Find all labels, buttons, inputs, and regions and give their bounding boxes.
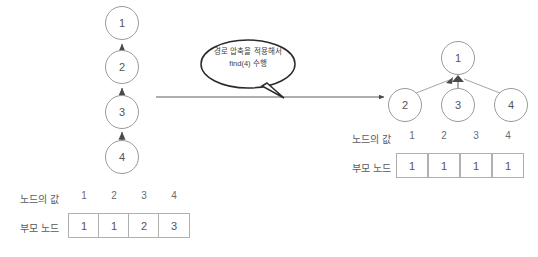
right-parent-cell: 1 [396, 153, 428, 178]
left-table-row2-label: 부모 노드 [20, 220, 59, 235]
left-node-4: 4 [105, 140, 139, 174]
right-col-header: 1 [396, 130, 428, 141]
left-col-header: 1 [68, 190, 100, 201]
left-col-header: 4 [158, 190, 190, 201]
right-child-node-2: 2 [388, 88, 422, 122]
left-parent-cell: 3 [158, 213, 190, 238]
right-parent-cell: 1 [428, 153, 460, 178]
right-col-header: 3 [460, 130, 492, 141]
right-parent-cell: 1 [460, 153, 492, 178]
left-parent-cell: 1 [68, 213, 100, 238]
left-parent-cell: 1 [98, 213, 130, 238]
right-parent-cell: 1 [492, 153, 524, 178]
right-child-node-3: 3 [441, 88, 475, 122]
left-parent-cell: 2 [128, 213, 160, 238]
right-col-header: 2 [428, 130, 460, 141]
right-table-row1-label: 노드의 값 [352, 131, 391, 146]
left-node-3: 3 [105, 95, 139, 129]
right-table-row2-label: 부모 노드 [352, 160, 391, 175]
callout-line-2: find(4) 수행 [206, 58, 290, 70]
left-col-header: 3 [128, 190, 160, 201]
right-child-node-4: 4 [494, 88, 528, 122]
callout-line-1: 경로 압축을 적용해서 [206, 46, 290, 58]
left-table-row1-label: 노드의 값 [20, 191, 59, 206]
left-node-1: 1 [105, 6, 139, 40]
diagram-canvas: 1 2 3 4 경로 압축을 적용해서 find(4) 수행 노드의 값 부모 … [0, 0, 538, 257]
right-root-node: 1 [441, 41, 475, 75]
left-node-2: 2 [105, 50, 139, 84]
left-col-header: 2 [98, 190, 130, 201]
callout-text: 경로 압축을 적용해서 find(4) 수행 [206, 46, 290, 69]
right-col-header: 4 [492, 130, 524, 141]
